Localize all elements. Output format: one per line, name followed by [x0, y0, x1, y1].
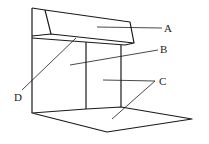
- shelf: [32, 34, 134, 45]
- label-c: C: [159, 76, 166, 87]
- label-b: B: [160, 44, 167, 55]
- leader-D: [22, 38, 76, 90]
- diagram-canvas: A B C D: [0, 0, 209, 144]
- label-a: A: [164, 23, 172, 34]
- leader-B: [70, 50, 158, 65]
- leader-C2: [112, 81, 155, 119]
- booth-drawing: [0, 0, 209, 144]
- top-box-front-left: [45, 10, 51, 34]
- floor: [32, 107, 192, 132]
- label-d: D: [14, 92, 22, 103]
- leader-C1: [103, 80, 155, 81]
- leader-A: [97, 27, 162, 28]
